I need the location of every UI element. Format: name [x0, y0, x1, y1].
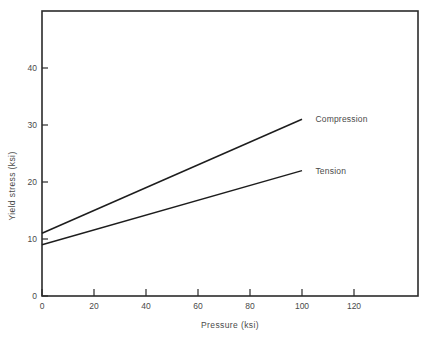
line-tension: [42, 171, 302, 245]
y-axis-title: Yield stress (ksi): [7, 151, 17, 220]
x-tick-label-120: 120: [347, 301, 361, 311]
x-axis-ticks: [42, 289, 354, 296]
x-tick-label-60: 60: [193, 301, 203, 311]
x-tick-label-80: 80: [245, 301, 255, 311]
x-tick-label-0: 0: [40, 301, 45, 311]
y-axis-tick-labels: 0 10 20 30 40: [28, 63, 38, 301]
x-tick-label-20: 20: [89, 301, 99, 311]
x-axis-tick-labels: 0 20 40 60 80 100 120: [40, 301, 362, 311]
series-label-tension: Tension: [315, 166, 346, 176]
y-axis-ticks: [42, 68, 48, 296]
series-lines: [42, 119, 302, 244]
plot-border: [42, 11, 418, 296]
y-tick-label-0: 0: [32, 291, 37, 301]
x-tick-label-40: 40: [141, 301, 151, 311]
y-tick-label-20: 20: [28, 177, 38, 187]
y-tick-label-40: 40: [28, 63, 38, 73]
x-tick-label-100: 100: [295, 301, 309, 311]
x-axis-title: Pressure (ksi): [201, 320, 259, 330]
y-tick-label-10: 10: [28, 234, 38, 244]
y-tick-label-30: 30: [28, 120, 38, 130]
line-compression: [42, 119, 302, 233]
series-label-compression: Compression: [315, 114, 367, 124]
yield-stress-vs-pressure-chart: 0 10 20 30 40 0 20 40 60 80 100 120 Pr: [0, 0, 429, 337]
chart-figure: 0 10 20 30 40 0 20 40 60 80 100 120 Pr: [0, 0, 429, 337]
